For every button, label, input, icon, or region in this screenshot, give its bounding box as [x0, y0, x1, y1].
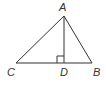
label-d: D: [60, 66, 68, 78]
label-b: B: [93, 66, 100, 78]
triangle-diagram: A C D B: [0, 0, 106, 101]
triangle-figure: A C D B: [0, 0, 106, 101]
right-angle-marker: [57, 56, 64, 63]
segment-ab: [64, 16, 92, 63]
label-a: A: [58, 1, 66, 13]
label-c: C: [7, 66, 15, 78]
